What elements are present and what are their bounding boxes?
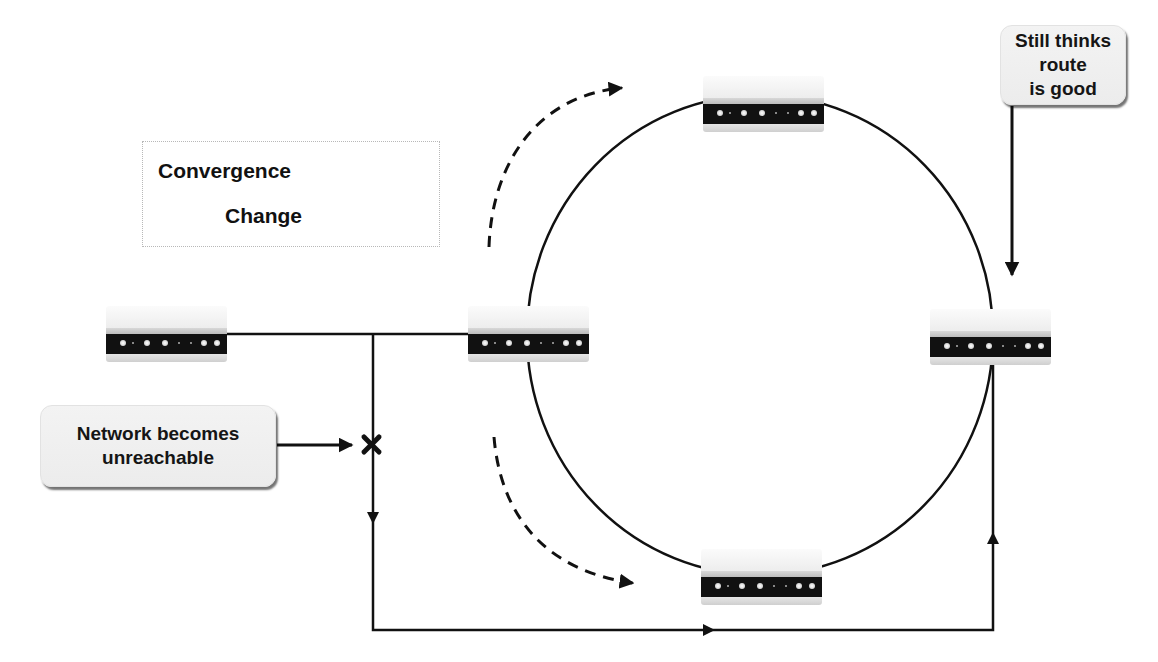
callout-line: unreachable <box>77 446 240 470</box>
change-arrow-upper <box>489 88 622 247</box>
router-icon-ring-bottom <box>701 549 822 607</box>
ring-link <box>527 95 993 575</box>
legend-change-label: Change <box>225 204 302 228</box>
legend-convergence-label: Convergence <box>158 159 291 183</box>
router-icon-ring-top <box>703 76 824 134</box>
arrow-right-icon <box>703 624 715 636</box>
router-icon-ring-right <box>930 309 1051 367</box>
failure-x-icon <box>364 437 379 452</box>
callout-line: Network becomes <box>77 422 240 446</box>
router-icon-ring-left <box>468 306 589 364</box>
router-icon-left <box>106 306 227 364</box>
arrow-up-icon <box>987 532 999 544</box>
legend-box: Convergence Change <box>142 141 440 247</box>
callout-still-thinks-route-good: Still thinks route is good <box>1000 25 1126 105</box>
convergence-path <box>373 334 993 630</box>
callout-network-unreachable: Network becomes unreachable <box>40 405 276 487</box>
arrow-down-icon <box>367 512 379 524</box>
change-arrow-lower <box>494 437 633 583</box>
callout-line: Still thinks route <box>1001 29 1125 77</box>
callout-line: is good <box>1001 77 1125 101</box>
